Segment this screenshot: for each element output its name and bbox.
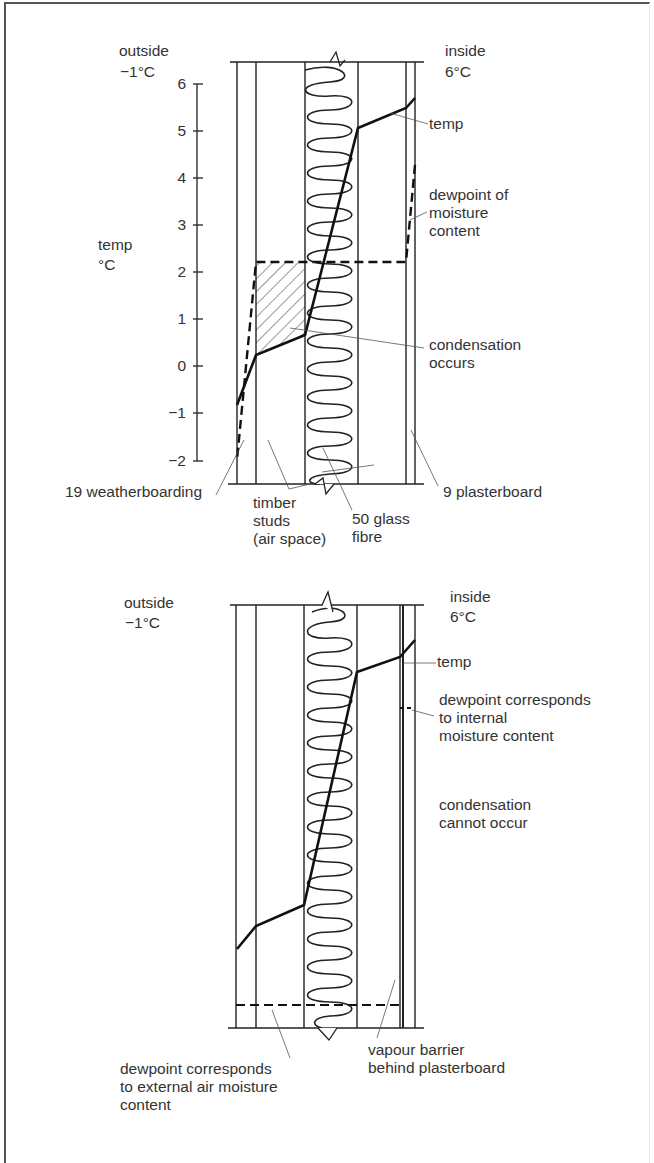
temp-line: [237, 640, 415, 949]
temp-annotation-2: temp: [437, 653, 471, 671]
outside-label-2: outside: [124, 594, 174, 612]
temp-line: [237, 98, 415, 405]
outside-temp-2: −1°C: [125, 614, 160, 632]
inside-label: inside: [445, 42, 486, 60]
tick-6: 6: [156, 75, 186, 93]
outside-label: outside: [119, 42, 169, 60]
studs-label: timber studs (air space): [253, 494, 326, 548]
tick-2: 2: [156, 263, 186, 281]
tick-1: 1: [156, 310, 186, 328]
outside-temp: −1°C: [120, 63, 155, 81]
glass-fibre-insulation: [308, 592, 352, 1040]
inside-label-2: inside: [450, 588, 491, 606]
tick-4: 4: [156, 169, 186, 187]
weatherboarding-label: 19 weatherboarding: [65, 483, 202, 501]
temp-axis: [193, 84, 203, 461]
axis-label: temp: [98, 236, 132, 254]
condensation-region: [256, 262, 305, 355]
glass-fibre-label: 50 glass fibre: [352, 510, 410, 546]
top-wall-section: [193, 52, 438, 510]
tick-3: 3: [156, 216, 186, 234]
dewpoint-external-annotation: dewpoint corresponds to external air moi…: [120, 1060, 278, 1114]
tick-5: 5: [156, 122, 186, 140]
condensation-annotation: condensation occurs: [429, 336, 521, 372]
tick-0: 0: [156, 357, 186, 375]
vapour-barrier-label: vapour barrier behind plasterboard: [368, 1041, 505, 1077]
tick-neg1: −1: [156, 404, 186, 422]
glass-fibre-insulation: [305, 52, 352, 494]
dewpoint-internal-annotation: dewpoint corresponds to internal moistur…: [439, 691, 591, 745]
bottom-wall-section: [228, 592, 436, 1058]
inside-temp: 6°C: [445, 63, 471, 81]
axis-unit: °C: [98, 256, 115, 274]
inside-temp-2: 6°C: [450, 608, 476, 626]
plasterboard-label: 9 plasterboard: [443, 483, 542, 501]
temp-annotation: temp: [429, 115, 463, 133]
condensation-cannot-annotation: condensation cannot occur: [439, 796, 531, 832]
dewpoint-annotation: dewpoint of moisture content: [429, 186, 508, 240]
wall-section-diagrams: [0, 0, 654, 1163]
tick-neg2: −2: [156, 452, 186, 470]
